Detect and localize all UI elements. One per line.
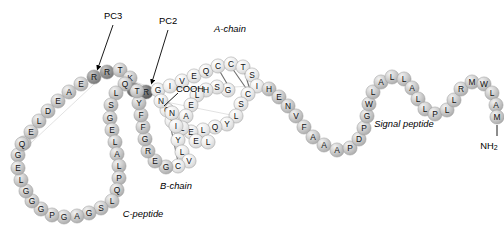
residue-circle xyxy=(165,106,179,120)
residue-circle xyxy=(70,209,84,223)
residue-bead: N xyxy=(165,106,179,120)
c-peptide-label: C-peptide xyxy=(123,208,164,219)
residue-circle xyxy=(87,70,101,84)
residue-bead: R xyxy=(87,70,101,84)
residue-layer: GVELDEAERRTKKRGIVEQCCTSICSLYQLENYCNGSHLE… xyxy=(11,57,504,224)
residue-bead: E xyxy=(74,77,88,91)
residue-bead: Q xyxy=(15,137,29,151)
residue-circle xyxy=(11,161,25,175)
residue-bead: N xyxy=(154,94,168,108)
residue-circle xyxy=(201,135,215,149)
preproinsulin-diagram: GVELDEAERRTKKRGIVEQCCTSICSLYQLENYCNGSHLE… xyxy=(0,0,504,232)
nh2-label: NH2 xyxy=(480,140,498,151)
residue-circle xyxy=(104,98,118,112)
residue-bead: M xyxy=(490,110,504,124)
nh2-text: NH xyxy=(480,140,494,151)
nh2-subscript: 2 xyxy=(494,144,498,151)
diagram-canvas: GVELDEAERRTKKRGIVEQCCTSICSLYQLENYCNGSHLE… xyxy=(0,0,504,232)
pc3-callout: PC3 xyxy=(98,10,122,69)
residue-circle xyxy=(317,138,331,152)
pc3-arrow xyxy=(98,25,113,68)
residue-circle xyxy=(330,143,344,157)
signal-peptide-label: Signal peptide xyxy=(374,118,433,129)
residue-bead: R xyxy=(100,65,114,79)
residue-circle xyxy=(74,77,88,91)
residue-bead: A xyxy=(317,138,331,152)
residue-bead: C xyxy=(211,59,225,73)
residue-circle xyxy=(490,110,504,124)
cooh-label: COOH xyxy=(176,83,204,94)
b-chain-label: B-chain xyxy=(160,180,192,191)
residue-bead: E xyxy=(11,161,25,175)
nh2-terminus: NH2 xyxy=(480,125,498,151)
residue-bead: A xyxy=(70,209,84,223)
residue-bead: S xyxy=(104,98,118,112)
pc2-label: PC2 xyxy=(159,15,177,26)
pc2-arrow xyxy=(152,30,168,82)
residue-circle xyxy=(62,85,76,99)
residue-bead: I xyxy=(169,119,183,133)
residue-circle xyxy=(15,137,29,151)
residue-bead: A xyxy=(330,143,344,157)
residue-circle xyxy=(211,59,225,73)
residue-circle xyxy=(169,119,183,133)
pc3-label: PC3 xyxy=(104,10,122,21)
residue-circle xyxy=(100,65,114,79)
pc2-callout: PC2 xyxy=(152,15,177,83)
residue-bead: L xyxy=(201,135,215,149)
residue-bead: A xyxy=(62,85,76,99)
a-chain-label: A-chain xyxy=(213,23,246,34)
residue-circle xyxy=(154,94,168,108)
